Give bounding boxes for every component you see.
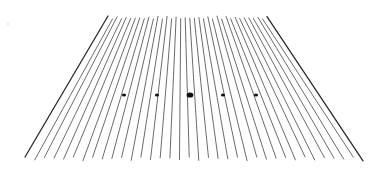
string-line	[131, 16, 158, 160]
string-line	[54, 19, 122, 158]
string-line	[180, 19, 181, 160]
string-line	[170, 17, 176, 158]
string-line	[222, 19, 267, 159]
string-line	[83, 18, 135, 161]
converging-lines-scene	[0, 0, 385, 174]
string-line	[244, 18, 314, 160]
string-line	[249, 18, 325, 158]
string-line	[240, 19, 305, 158]
string-line	[231, 19, 286, 158]
stray-marks	[7, 23, 8, 24]
string-line	[44, 17, 117, 158]
position-dot	[187, 92, 194, 97]
string-lines	[25, 16, 363, 161]
string-line	[141, 19, 163, 157]
string-line	[190, 18, 199, 160]
string-line	[93, 18, 140, 157]
string-line	[267, 17, 363, 161]
string-line	[263, 19, 354, 157]
string-line	[73, 18, 130, 157]
string-line	[160, 19, 171, 158]
string-line	[213, 19, 248, 161]
position-dots	[122, 92, 258, 97]
position-dot	[122, 93, 126, 96]
string-line	[258, 17, 344, 159]
string-line	[122, 19, 154, 158]
string-line	[102, 19, 144, 159]
position-dot	[221, 93, 225, 96]
position-dot	[254, 93, 258, 96]
stray-mark	[7, 23, 8, 24]
position-dot	[155, 93, 159, 96]
string-line	[151, 16, 168, 159]
string-line	[185, 18, 189, 157]
